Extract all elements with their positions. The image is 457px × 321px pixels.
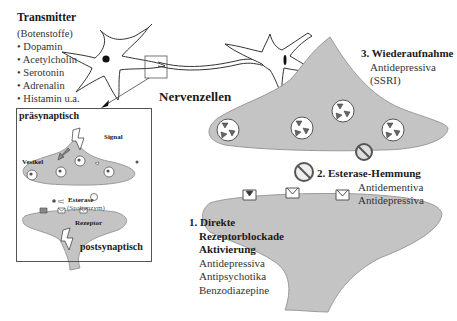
transmitter-subtitle: (Botenstoffe) [17, 27, 80, 40]
mechanism-esterase-drug: Antidementiva [317, 181, 424, 195]
mechanism-esterase: 2. Esterase-Hemmung Antidementiva Antide… [317, 167, 424, 208]
inhibit-reuptake-icon [356, 144, 372, 160]
synapse-inset-panel [16, 108, 152, 262]
vesicle-label: Vesikel [22, 158, 43, 166]
mechanism-reuptake-drug: Antidepressiva [361, 61, 454, 75]
zoom-arrowhead [101, 100, 109, 108]
mechanism-receptor-title: 1. Direkte [189, 216, 284, 230]
mechanism-receptor-drug: Benzodiazepine [189, 284, 284, 298]
transmitter-item: • Adrenalin [17, 79, 80, 92]
mechanism-receptor-title: Rezeptorblockade [189, 230, 284, 244]
receptor-label: Rezeptor [75, 219, 102, 227]
transmitter-title: Transmitter [17, 11, 80, 25]
mechanism-reuptake: 3. Wiederaufnahme Antidepressiva (SSRI) [361, 47, 454, 88]
mechanism-esterase-drug: Antidepressiva [317, 194, 424, 208]
mechanism-receptor: 1. Direkte Rezeptorblockade Aktivierung … [189, 216, 284, 297]
esterase-label: Esterase [68, 196, 93, 204]
mechanism-receptor-drug: Antipsychotika [189, 270, 284, 284]
transmitter-item: • Serotonin [17, 66, 80, 79]
neurons-label: Nervenzellen [159, 90, 231, 104]
transmitter-item: • Acetylcholin [17, 53, 80, 66]
presynaptic-label: präsynaptisch [19, 109, 79, 123]
nucleus-right [284, 55, 287, 65]
mechanism-esterase-title: 2. Esterase-Hemmung [317, 167, 424, 181]
inhibit-esterase-icon [295, 163, 313, 181]
postsynaptic-label: postsynaptisch [80, 240, 143, 254]
mechanism-reuptake-title: 3. Wiederaufnahme [361, 47, 454, 61]
mechanism-receptor-title: Aktivierung [189, 243, 284, 257]
transmitter-item: • Dopamin [17, 40, 80, 53]
transmitter-block: Transmitter (Botenstoffe) • Dopamin • Ac… [17, 11, 80, 105]
esterase-sublabel: (Spaltenzym) [67, 204, 105, 212]
mechanism-receptor-drug: Antidepressiva [189, 257, 284, 271]
signal-label: Signal [104, 133, 123, 141]
nucleus-left [102, 55, 109, 62]
mechanism-reuptake-drug: (SSRI) [361, 74, 454, 88]
transmitter-item: • Histamin u.a. [17, 92, 80, 105]
